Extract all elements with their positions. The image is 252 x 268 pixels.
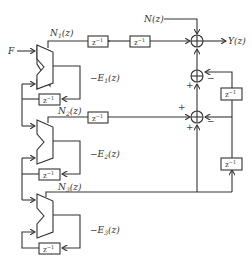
n3-wire [46,192,232,197]
sign-minus-mid: − [207,73,215,83]
stage3-error-label: −E3(z) [90,225,120,236]
sign-plus-mid: + [186,80,194,90]
stage1-error-label: −E1(z) [90,73,120,84]
input-label: F [7,46,15,56]
mash-sigma-delta-diagram: F N1(z) z−1 z−1 −E1(z) z−1 N2(z) z−1 −E2… [0,0,252,268]
stage1-output-label: N1(z) [49,28,74,39]
noise-label: N(z) [143,14,164,24]
sign-plus-low-a: + [178,102,186,112]
stage3-output-label: N3(z) [57,182,82,193]
noise-wire [164,19,197,34]
sign-plus-low-b: + [186,122,194,132]
n2-wire [48,117,88,123]
stage2-error-label: −E2(z) [90,149,120,160]
stage3-adder-icon [37,194,53,238]
output-label: Y(z) [228,36,246,46]
stage2-adder-icon [37,120,53,164]
stage2-output-label: N2(z) [57,106,82,117]
